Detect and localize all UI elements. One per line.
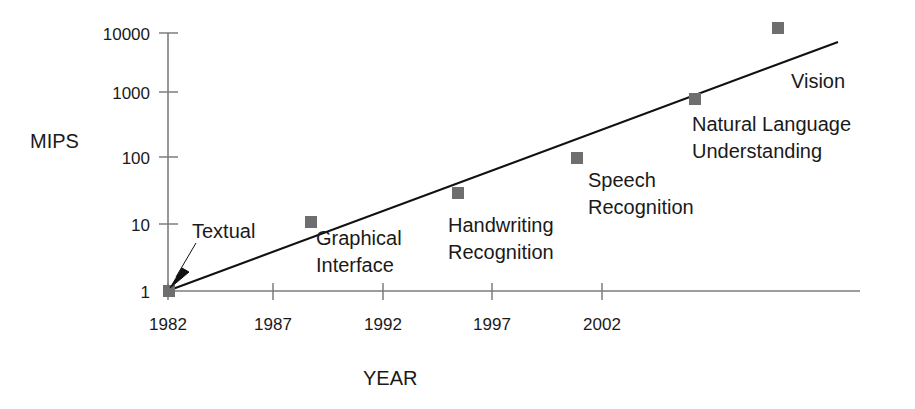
label-vision: Vision — [791, 70, 845, 92]
data-point-speech[interactable] — [571, 152, 583, 164]
x-tick-label-1997: 1997 — [473, 315, 511, 334]
label-nlu-line1: Natural Language — [692, 113, 851, 135]
chart-page: 10000 1000 100 10 1 1982 1987 1992 1997 … — [0, 0, 915, 409]
label-speech-line2: Recognition — [588, 196, 694, 218]
label-nlu-line2: Understanding — [692, 140, 822, 162]
label-handwriting-line2: Recognition — [448, 241, 554, 263]
x-tick-label-1982: 1982 — [149, 315, 187, 334]
x-tick-label-1992: 1992 — [364, 315, 402, 334]
x-axis-title: YEAR — [363, 367, 417, 389]
data-point-vision[interactable] — [772, 22, 784, 34]
y-tick-label-100: 100 — [122, 149, 150, 168]
x-tick-label-1987: 1987 — [254, 315, 292, 334]
label-graphical-line2: Interface — [316, 254, 394, 276]
y-tick-label-10000: 10000 — [103, 25, 150, 44]
y-tick-labels: 10000 1000 100 10 1 — [103, 25, 150, 302]
x-tick-labels: 1982 1987 1992 1997 2002 — [149, 315, 621, 334]
y-tick-label-1: 1 — [141, 283, 150, 302]
y-tick-label-1000: 1000 — [112, 84, 150, 103]
data-point-handwriting[interactable] — [452, 187, 464, 199]
y-tick-label-10: 10 — [131, 216, 150, 235]
data-point-nlu[interactable] — [689, 93, 701, 105]
y-axis-title: MIPS — [30, 130, 79, 152]
label-graphical-line1: Graphical — [316, 227, 402, 249]
data-point-textual[interactable] — [163, 285, 175, 297]
label-speech-line1: Speech — [588, 169, 656, 191]
mips-vs-year-chart: 10000 1000 100 10 1 1982 1987 1992 1997 … — [0, 0, 915, 409]
x-tick-label-2002: 2002 — [583, 315, 621, 334]
label-textual: Textual — [192, 220, 255, 242]
label-handwriting-line1: Handwriting — [448, 214, 554, 236]
